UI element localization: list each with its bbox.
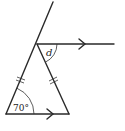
angle-label-70: 70° xyxy=(13,103,29,113)
extended-line xyxy=(6,2,53,114)
angle-label-d: d xyxy=(46,47,52,58)
geometry-diagram: d 70° xyxy=(0,0,125,131)
